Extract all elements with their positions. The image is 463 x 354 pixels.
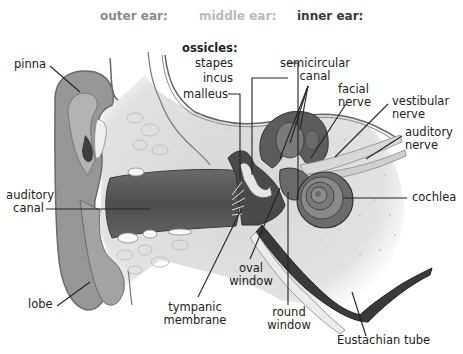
header-outer-ear: outer ear: — [100, 9, 168, 23]
label-malleus: malleus — [183, 88, 227, 101]
label-cochlea: cochlea — [412, 191, 456, 204]
label-oval-line2: window — [226, 275, 276, 288]
label-stapes: stapes — [193, 57, 233, 70]
label-vestibular-line2: nerve — [392, 108, 449, 121]
label-lobe: lobe — [28, 298, 53, 311]
label-auditory-nerve: auditory nerve — [405, 126, 453, 152]
cochlea-shape — [297, 172, 353, 228]
label-round-window: round window — [264, 306, 314, 332]
header-inner-ear: inner ear: — [297, 9, 363, 23]
label-eustachian-tube: Eustachian tube — [337, 334, 430, 347]
label-tympanic-membrane: tympanic membrane — [163, 301, 227, 327]
label-facial-nerve: facial nerve — [338, 83, 371, 109]
label-auditory-canal: auditory canal — [0, 189, 54, 215]
semicircular-loop — [276, 122, 304, 158]
label-incus: incus — [193, 72, 233, 85]
label-auditory-canal-line2: canal — [0, 202, 54, 215]
label-auditory-nerve-line2: nerve — [405, 139, 453, 152]
label-semicircular-canal: semicircular canal — [280, 57, 350, 83]
label-facial-line2: nerve — [338, 96, 371, 109]
header-middle-ear: middle ear: — [199, 9, 276, 23]
label-round-line2: window — [264, 319, 314, 332]
label-pinna: pinna — [14, 58, 46, 71]
label-tympanic-line2: membrane — [163, 314, 227, 327]
label-oval-window: oval window — [226, 262, 276, 288]
label-ossicles-title: ossicles: — [182, 42, 238, 55]
label-vestibular-nerve: vestibular nerve — [392, 95, 449, 121]
